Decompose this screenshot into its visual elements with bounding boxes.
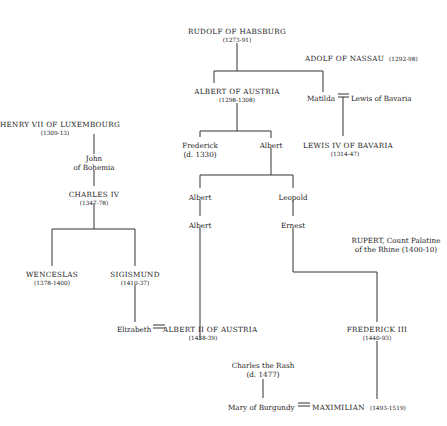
node-name: Elizabeth <box>117 325 151 334</box>
node-frederick-iii: FREDERICK III (1440-93) <box>342 322 412 343</box>
node-name: Ernest <box>281 221 305 230</box>
node-lewis-of-bavaria: Lewis of Bavaria <box>351 91 412 103</box>
node-dates: (1292-98) <box>389 56 418 62</box>
node-adolf-of-nassau: ADOLF OF NASSAU (1292-98) <box>305 51 418 64</box>
node-henry-vii-of-luxembourg: HENRY VII OF LUXEMBOURG (1309-13) <box>0 117 110 138</box>
node-name: CHARLES IV <box>69 190 120 199</box>
node-name-line2: of Bohemia <box>69 163 119 172</box>
node-dates: (1378-1400) <box>22 279 82 288</box>
node-john-of-bohemia: John of Bohemia <box>69 154 119 172</box>
node-mary-of-burgundy: Mary of Burgundy <box>228 400 295 412</box>
node-name: Frederick <box>182 141 218 150</box>
node-dates: (1273-91) <box>187 36 287 45</box>
node-albert-son: Albert <box>251 138 291 150</box>
node-name: ALBERT OF AUSTRIA <box>194 87 280 96</box>
node-name: Matilda <box>307 94 335 103</box>
node-name: ALBERT II OF AUSTRIA <box>163 325 257 334</box>
node-name: John <box>69 154 119 163</box>
node-maximilian: MAXIMILIAN (1493-1519) <box>312 400 406 413</box>
node-dates: (1314-47) <box>303 150 387 159</box>
node-name: HENRY VII OF LUXEMBOURG <box>0 120 120 129</box>
node-name: Albert <box>189 193 212 202</box>
node-dates: (1347-78) <box>64 199 124 208</box>
node-dates: (1309-13) <box>0 129 110 138</box>
node-rupert: RUPERT, Count Palatine of the Rhine (140… <box>346 236 446 254</box>
node-name: MAXIMILIAN <box>312 403 365 412</box>
node-rudolf-of-habsburg: RUDOLF OF HABSBURG (1273-91) <box>187 24 287 45</box>
node-dates: (1493-1519) <box>370 405 406 411</box>
node-leopold: Leopold <box>273 190 313 202</box>
node-dates: (1410-37) <box>105 279 165 288</box>
node-elizabeth: Elizabeth <box>117 322 151 334</box>
node-name: WENCESLAS <box>26 270 78 279</box>
node-name-line2: of the Rhine (1400-10) <box>346 245 446 254</box>
node-dates: (d. 1477) <box>228 370 298 379</box>
node-lewis-iv-of-bavaria: LEWIS IV OF BAVARIA (1314-47) <box>303 138 387 159</box>
node-charles-the-rash: Charles the Rash (d. 1477) <box>228 361 298 379</box>
node-name: LEWIS IV OF BAVARIA <box>303 141 393 150</box>
node-name: Albert <box>189 221 212 230</box>
node-dates: (1440-93) <box>342 334 412 343</box>
node-name: Charles the Rash <box>228 361 298 370</box>
node-wenceslas: WENCESLAS (1378-1400) <box>22 267 82 288</box>
node-name: Albert <box>260 141 283 150</box>
node-sigismund: SIGISMUND (1410-37) <box>105 267 165 288</box>
node-dates: (1298-1308) <box>187 96 287 105</box>
node-albert-great-grandson: Albert <box>180 218 220 230</box>
node-name: Lewis of Bavaria <box>351 94 412 103</box>
node-dates: (1438-39) <box>163 334 243 343</box>
node-name: RUDOLF OF HABSBURG <box>188 27 286 36</box>
node-dates: (d. 1330) <box>175 150 225 159</box>
node-albert-of-austria: ALBERT OF AUSTRIA (1298-1308) <box>187 84 287 105</box>
node-frederick: Frederick (d. 1330) <box>175 138 225 159</box>
node-charles-iv: CHARLES IV (1347-78) <box>64 187 124 208</box>
node-name: FREDERICK III <box>347 325 407 334</box>
node-matilda: Matilda <box>307 91 335 103</box>
node-name: RUPERT, Count Palatine <box>346 236 446 245</box>
node-name: Mary of Burgundy <box>228 403 295 412</box>
node-name: ADOLF OF NASSAU <box>305 54 384 63</box>
node-name: Leopold <box>278 193 307 202</box>
node-ernest: Ernest <box>273 218 313 230</box>
node-albert-grandson: Albert <box>180 190 220 202</box>
node-name: SIGISMUND <box>110 270 159 279</box>
node-albert-ii-of-austria: ALBERT II OF AUSTRIA (1438-39) <box>163 322 243 343</box>
